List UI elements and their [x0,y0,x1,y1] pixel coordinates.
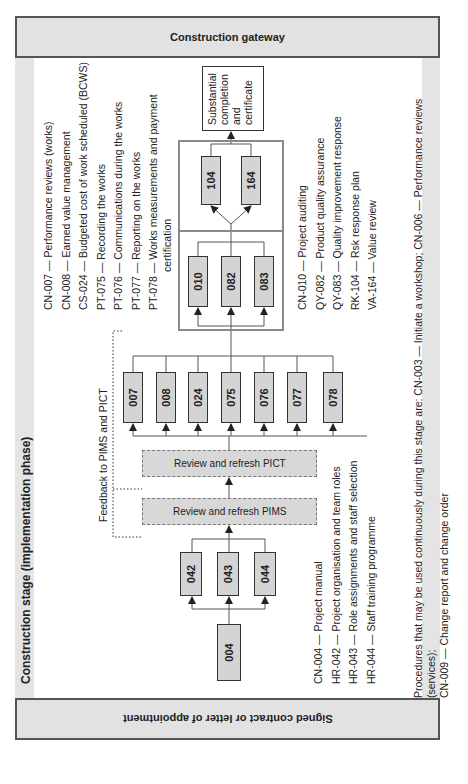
diagram-canvas: Signed contract or letter of appointment… [0,0,468,784]
legend-item: CN-010 — Project auditing [294,116,312,310]
legend-item: QY-083 — Quality improvement response [329,116,347,310]
procedure-box-042[interactable]: 042 [180,552,202,596]
outcome-line: Substantial [206,72,218,125]
procedure-box-008[interactable]: 008 [156,372,176,423]
procedure-box-076[interactable]: 076 [254,372,274,423]
legend-item: PT-077 — Reporting on the works [128,62,146,310]
procedure-code: 007 [127,388,139,406]
legend-item: PT-075 — Recording the works [93,62,111,310]
procedure-box-164[interactable]: 164 [241,156,261,205]
legend-item: CN-008 — Earned value management [58,62,76,310]
procedure-box-004[interactable]: 004 [217,624,241,681]
procedure-code: 077 [291,388,303,406]
legend-item: HR-044 — Staff training programme [363,461,381,684]
procedure-code: 075 [225,388,237,406]
review-pict-box[interactable]: Review and refresh PICT [142,450,317,477]
procedure-code: 076 [258,388,270,406]
outcome-box: Substantial completion and certificate [202,66,264,131]
procedure-code: 024 [192,388,204,406]
legend-item: CS-024 — Budgeted cost of work scheduled… [75,62,93,310]
note-line: Procedures that may be used continuously… [412,62,438,698]
procedure-code: 044 [259,565,271,583]
procedure-box-075[interactable]: 075 [221,372,241,423]
legend-item: HR-042 — Project organisation and team r… [328,461,346,684]
legend-item: RK-104 — Rsk response plan [347,116,365,310]
procedure-code: 004 [223,643,235,661]
procedure-code: 078 [327,388,339,406]
outcome-line: certificate [242,72,254,125]
review-pims-label: Review and refresh PIMS [173,506,286,517]
procedure-code: 083 [258,272,270,290]
legend-item: HR-043 — Role assignments and staff sele… [345,461,363,684]
note-line: CN-009 — Change report and change order [438,62,451,698]
procedure-code: 043 [222,565,234,583]
legend-item: PT-078 — Works measurements and payment [145,62,163,310]
procedure-box-077[interactable]: 077 [287,372,307,423]
procedure-code: 082 [225,272,237,290]
procedure-box-007[interactable]: 007 [123,372,143,423]
procedure-code: 008 [160,388,172,406]
procedure-box-082[interactable]: 082 [221,256,241,307]
legend-group3: CN-010 — Project auditing QY-082 — Produ… [294,116,382,310]
outcome-line: completion [218,72,230,125]
procedure-box-024[interactable]: 024 [188,372,208,423]
legend-item: VA-164 — Value review [364,116,382,310]
legend-item: CN-004 — Project manual [310,461,328,684]
legend-item: CN-007 — Performance reviews (works) [40,62,58,310]
procedure-box-078[interactable]: 078 [323,372,343,423]
procedure-code: 010 [192,272,204,290]
procedure-code: 042 [185,565,197,583]
review-pict-label: Review and refresh PICT [174,458,286,469]
legend-item: QY-082 — Product quality assurance [312,116,330,310]
review-pims-box[interactable]: Review and refresh PIMS [142,498,317,525]
procedure-box-083[interactable]: 083 [254,256,274,307]
procedure-code: 164 [245,171,257,189]
legend-group1: CN-004 — Project manual HR-042 — Project… [310,461,380,684]
procedure-box-010[interactable]: 010 [188,256,208,307]
legend-group2: CN-007 — Performance reviews (works) CN-… [40,62,176,310]
feedback-label: Feedback to PIMS and PICT [97,388,109,522]
procedure-box-043[interactable]: 043 [217,552,239,596]
procedure-code: 104 [205,171,217,189]
legend-item: PT-076 — Communications during the works [110,62,128,310]
continuous-procedures-note: Procedures that may be used continuously… [412,62,451,698]
procedure-box-044[interactable]: 044 [254,552,276,596]
procedure-box-104[interactable]: 104 [201,156,221,205]
outcome-line: and [230,72,242,125]
